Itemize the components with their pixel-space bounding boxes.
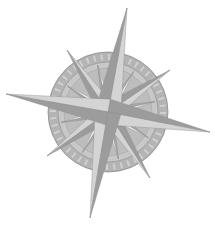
ring-tick xyxy=(160,112,166,114)
ring-tick xyxy=(106,164,108,170)
compass-cardinal-points xyxy=(6,8,210,218)
ring-tick xyxy=(50,110,56,112)
compass-rose-icon xyxy=(0,0,215,225)
compass-rose-illustration xyxy=(0,0,215,225)
ring-tick xyxy=(108,54,110,60)
